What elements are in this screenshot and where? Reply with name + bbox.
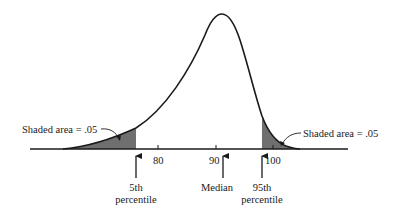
- left-shaded-area-label: Shaded area = .05: [22, 124, 97, 135]
- right-shaded-area-label: Shaded area = .05: [303, 128, 378, 139]
- label-median: Median: [201, 182, 234, 193]
- right-leader-line: [282, 133, 301, 144]
- tick-label-100: 100: [265, 155, 281, 166]
- label-95th-percentile: percentile: [241, 194, 283, 205]
- label-5th: 5th: [129, 182, 143, 193]
- skewed-distribution-diagram: 80 90 100 5th percentile Median 95th per…: [0, 0, 398, 218]
- tick-label-90: 90: [209, 155, 220, 166]
- label-95th: 95th: [253, 182, 272, 193]
- label-5th-percentile: percentile: [115, 194, 157, 205]
- tick-label-80: 80: [153, 155, 164, 166]
